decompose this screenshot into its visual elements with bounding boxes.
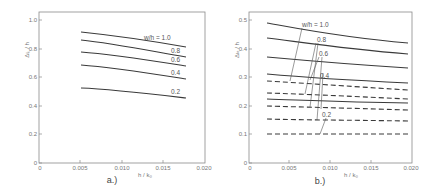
- panel-b: 0 0.1 0.2 0.3 0.4 0.5 Διₑ / h 0 0.005 0.…: [234, 12, 419, 186]
- panel-b-solid-w0.2: [267, 99, 408, 103]
- panel-b-dashed-w0.4: [267, 119, 408, 121]
- panel-b-ytick: 0: [244, 160, 248, 166]
- panel-b-solid-w0.6: [267, 57, 408, 68]
- panel-a-ytick: 0.6: [29, 74, 38, 80]
- panel-b-dashed-w0.8: [267, 93, 408, 99]
- panel-b-solid-w1.0: [267, 23, 408, 43]
- panel-a: 0 0.2 0.4 0.6 0.8 1.0 Δι꜀ / h 0 0.005 0.…: [24, 12, 212, 185]
- panel-b-xtick: 0: [248, 165, 252, 171]
- panel-a-xtick: 0.010: [114, 165, 130, 171]
- panel-a-y-axis-label: Δι꜀ / h: [24, 42, 30, 58]
- panel-a-curve-label: 0.4: [171, 69, 180, 76]
- panel-a-ytick: 1.0: [29, 17, 38, 23]
- panel-a-xtick: 0.005: [72, 165, 88, 171]
- panel-a-x-axis-label: h / k₀: [138, 172, 152, 178]
- panel-b-xtick: 0.010: [322, 165, 338, 171]
- panel-b-curve-label: 0.6: [319, 50, 328, 57]
- panel-a-xtick: 0: [38, 165, 42, 171]
- panel-b-curve-label: w/h = 1.0: [301, 21, 329, 28]
- panel-a-label: a.): [107, 175, 118, 185]
- panel-b-curve-label: 0.4: [320, 72, 329, 79]
- figure: 0 0.2 0.4 0.6 0.8 1.0 Δι꜀ / h 0 0.005 0.…: [0, 0, 435, 193]
- panel-b-dashed-curves: [267, 81, 408, 134]
- panel-a-frame: [39, 12, 205, 163]
- panel-a-curve-label: 0.8: [171, 47, 180, 54]
- panel-a-curve-label: 0.2: [171, 88, 180, 95]
- panel-b-xtick: 0.020: [403, 165, 419, 171]
- panel-b-curve-labels: w/h = 1.0 0.8 0.6 0.4 0.2: [301, 21, 331, 118]
- panel-b-ytick: 0.1: [239, 131, 248, 137]
- panel-b-curve-label: 0.8: [317, 36, 326, 43]
- panel-b-xtick: 0.005: [281, 165, 297, 171]
- panel-b-y-axis-label: Διₑ / h: [234, 42, 240, 58]
- panel-b-ytick: 0.2: [239, 103, 248, 109]
- panel-b-solid-w0.4: [267, 74, 408, 83]
- panel-b-x-axis-label: h / k₀: [344, 172, 358, 178]
- panel-a-ytick: 0.4: [29, 103, 38, 109]
- panel-b-leader-lines: [290, 28, 326, 134]
- panel-a-xtick: 0.020: [196, 165, 212, 171]
- panel-a-curve-label: w/h = 1.0: [143, 34, 171, 41]
- panel-b-frame: [249, 12, 412, 163]
- panel-a-curve-label: 0.6: [171, 56, 180, 63]
- panel-b-ytick: 0.3: [239, 74, 248, 80]
- panel-b-ytick: 0.5: [239, 17, 248, 23]
- panel-a-ytick: 0.8: [29, 46, 38, 52]
- panel-a-ytick: 0.2: [29, 131, 38, 137]
- panel-b-solid-w0.8: [267, 38, 408, 54]
- panel-a-ytick: 0: [34, 160, 38, 166]
- panel-b-xtick: 0.015: [363, 165, 379, 171]
- panel-b-label: b.): [315, 176, 326, 186]
- panel-b-solid-curves: [267, 23, 408, 103]
- panel-a-xtick: 0.015: [155, 165, 171, 171]
- panel-b-ytick: 0.4: [239, 46, 248, 52]
- panel-b-curve-label: 0.2: [322, 111, 331, 118]
- panel-b-dashed-w0.6: [267, 106, 408, 110]
